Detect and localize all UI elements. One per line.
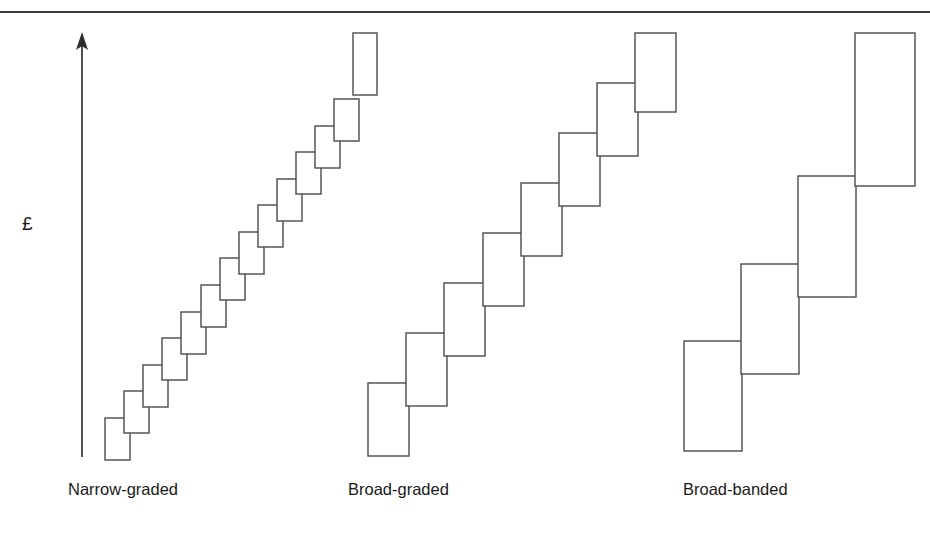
series-broad-banded	[684, 33, 915, 451]
grade-rect-broad-banded-3	[798, 176, 856, 297]
diagram-canvas	[0, 0, 930, 534]
group-label-broad-banded: Broad-banded	[683, 481, 788, 498]
series-broad-graded	[368, 33, 676, 456]
grade-rect-broad-graded-1	[368, 383, 409, 456]
grade-rect-broad-banded-4	[855, 33, 915, 186]
grade-rect-broad-graded-8	[635, 33, 676, 112]
grade-rect-broad-graded-6	[559, 133, 600, 206]
grade-rect-broad-graded-5	[521, 183, 562, 256]
grade-rect-narrow-graded-13	[334, 99, 359, 141]
y-axis-label: £	[22, 214, 33, 233]
grade-rect-broad-banded-2	[741, 264, 799, 374]
grade-rect-broad-graded-3	[444, 283, 485, 356]
series-narrow-graded	[105, 33, 377, 460]
grade-rect-broad-graded-4	[483, 233, 524, 306]
grade-rect-narrow-graded-14	[353, 33, 377, 95]
group-label-narrow-graded: Narrow-graded	[68, 481, 178, 498]
grade-rect-broad-graded-7	[597, 83, 638, 156]
pay-structure-diagram: £ Narrow-graded Broad-graded Broad-bande…	[0, 0, 930, 534]
y-axis-group	[76, 32, 88, 457]
group-label-broad-graded: Broad-graded	[348, 481, 449, 498]
grade-rect-broad-banded-1	[684, 341, 742, 451]
grade-rect-broad-graded-2	[406, 333, 447, 406]
